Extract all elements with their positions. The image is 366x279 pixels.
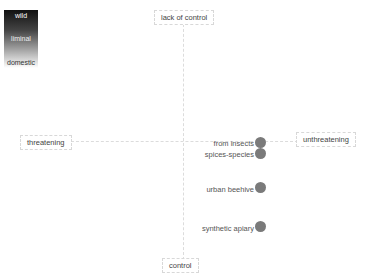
point-label-synthetic-apiary: synthetic apiary bbox=[202, 224, 254, 233]
data-point-spices-species bbox=[255, 148, 266, 159]
gradient-legend: wild liminal domestic bbox=[4, 10, 38, 68]
point-label-urban-beehive: urban beehive bbox=[206, 185, 254, 194]
axis-label-control: control bbox=[162, 258, 199, 273]
vertical-axis bbox=[183, 24, 184, 260]
legend-label-domestic: domestic bbox=[4, 59, 38, 67]
data-point-synthetic-apiary bbox=[255, 221, 266, 232]
point-label-from-insects: from insects bbox=[214, 139, 254, 148]
axis-label-threatening: threatening bbox=[20, 135, 72, 150]
legend-label-wild: wild bbox=[4, 12, 38, 20]
axis-label-lack-of-control: lack of control bbox=[154, 10, 214, 25]
point-label-spices-species: spices-species bbox=[205, 150, 254, 159]
data-point-urban-beehive bbox=[255, 182, 266, 193]
axis-label-unthreatening: unthreatening bbox=[296, 132, 356, 147]
data-point-from-insects bbox=[255, 137, 266, 148]
legend-label-liminal: liminal bbox=[4, 35, 38, 43]
